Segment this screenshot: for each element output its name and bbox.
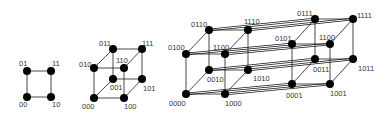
cube-label-000: 000 bbox=[82, 102, 95, 111]
tesseract-label-1001: 1001 bbox=[330, 89, 347, 98]
cube-edge-010-011 bbox=[94, 49, 113, 68]
hypercube-diagram: 0001101100010001011000110101111100001000… bbox=[0, 0, 389, 118]
tesseract-label-0001: 0001 bbox=[286, 91, 303, 100]
cube-label-110: 110 bbox=[116, 56, 128, 65]
tesseract-node-0001 bbox=[288, 80, 296, 88]
tesseract-label-1010: 1010 bbox=[253, 74, 270, 83]
tesseract-node-1110 bbox=[244, 26, 252, 34]
tesseract-node-1001 bbox=[326, 80, 334, 88]
tesseract-node-1111 bbox=[349, 15, 357, 23]
tesseract-label-1110: 1110 bbox=[244, 17, 260, 26]
tesseract-edge-0100-0110 bbox=[186, 30, 209, 54]
tesseract-edge-0101-0111 bbox=[292, 19, 315, 44]
cube-node-100 bbox=[120, 94, 128, 102]
square-node-11 bbox=[47, 67, 55, 75]
cube-label-001: 001 bbox=[110, 83, 123, 92]
cube-node-001 bbox=[109, 75, 117, 83]
tesseract-label-0100: 0100 bbox=[168, 43, 185, 52]
cube-node-110 bbox=[120, 64, 128, 72]
square-node-01 bbox=[23, 67, 31, 75]
tesseract-edge-0000-0010 bbox=[186, 70, 209, 94]
tesseract-node-1010 bbox=[244, 66, 252, 74]
tesseract-label-1011: 1011 bbox=[358, 64, 374, 73]
tesseract-label-1000: 1000 bbox=[225, 99, 242, 108]
hypercube-svg: 0001101100010001011000110101111100001000… bbox=[0, 0, 389, 118]
square-label-00: 00 bbox=[19, 100, 27, 109]
tesseract-edge-1001-1011 bbox=[330, 59, 353, 84]
tesseract-node-1011 bbox=[349, 55, 357, 63]
tesseract-label-0110: 0110 bbox=[191, 20, 207, 29]
tesseract-label-1101: 1100 bbox=[319, 33, 335, 42]
cube-label-101: 101 bbox=[143, 84, 156, 93]
square-label-01: 01 bbox=[19, 59, 27, 68]
graph-labels: 0001101100010001011000110101111100001000… bbox=[19, 9, 374, 111]
tesseract-node-0010 bbox=[205, 66, 213, 74]
cube-node-101 bbox=[138, 75, 146, 83]
tesseract-label-0000: 0000 bbox=[169, 99, 186, 108]
square-label-10: 10 bbox=[52, 100, 60, 109]
tesseract-node-1000 bbox=[221, 90, 229, 98]
tesseract-node-0011 bbox=[311, 55, 319, 63]
square-label-11: 11 bbox=[52, 59, 60, 68]
cube-label-011: 011 bbox=[99, 39, 111, 48]
tesseract-label-0101: 0101 bbox=[275, 34, 292, 43]
cube-label-100: 100 bbox=[124, 102, 137, 111]
tesseract-label-1100: 1100 bbox=[213, 43, 229, 52]
tesseract-label-0111: 0111 bbox=[297, 9, 313, 18]
tesseract-edge-0001-0011 bbox=[292, 59, 315, 84]
tesseract-node-0000 bbox=[182, 90, 190, 98]
tesseract-label-0010: 0010 bbox=[207, 75, 224, 84]
cube-label-010: 010 bbox=[79, 60, 92, 69]
cube-label-111: 111 bbox=[142, 39, 153, 48]
tesseract-label-0011: 0011 bbox=[313, 65, 329, 74]
cube-node-000 bbox=[90, 94, 98, 102]
tesseract-label-1111: 1111 bbox=[357, 11, 372, 20]
